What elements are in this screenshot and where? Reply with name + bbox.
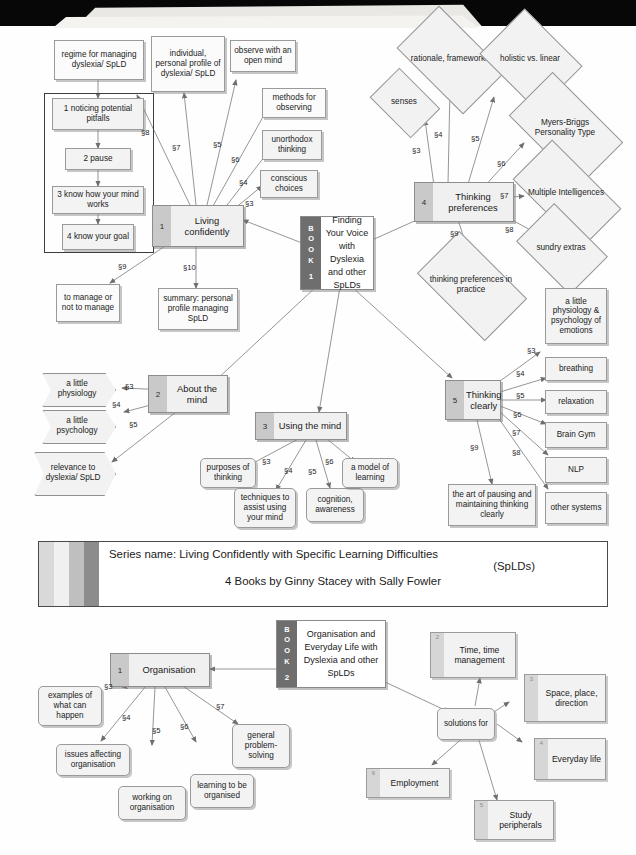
swatch xyxy=(54,542,69,606)
area-number: 5 xyxy=(475,801,488,839)
section-label: §7 xyxy=(500,191,508,200)
swatch xyxy=(84,542,99,606)
series-authors-line: 4 Books by Ginny Stacey with Sally Fowle… xyxy=(109,572,597,587)
area-number: 4 xyxy=(535,739,548,779)
area-label: Study peripherals xyxy=(488,801,553,839)
chapter-3-using-the-mind: 3 Using the mind xyxy=(255,412,347,440)
other-systems-box: other systems xyxy=(545,492,607,524)
chapter-title: Living confidently xyxy=(171,206,243,246)
book-spine: B O O K 2 xyxy=(277,621,297,687)
methods-for-observing-box: methods for observing xyxy=(262,88,326,118)
regime-for-managing-box: regime for managing dyslexia/ SpLD xyxy=(54,40,144,80)
series-name-line: Series name: Living Confidently with Spe… xyxy=(109,548,597,560)
section-label: §5 xyxy=(516,391,524,400)
general-problem-solving-box: general problem-solving xyxy=(232,724,290,768)
section-label: §5 xyxy=(213,140,221,149)
techniques-to-assist-box: techniques to assist using your mind xyxy=(234,488,296,528)
spine-letter: K xyxy=(284,657,289,668)
spine-letter: K xyxy=(308,256,313,267)
chevron-label: relevance to dyslexia/ SpLD xyxy=(34,452,114,494)
art-of-pausing-box: the art of pausing and maintaining think… xyxy=(448,484,536,526)
area-label: Space, place, direction xyxy=(538,675,605,721)
chapter-number: 2 xyxy=(149,376,167,412)
chevron-label: a little psychology xyxy=(42,410,114,442)
section-label: §7 xyxy=(172,143,180,152)
chapter-1-living-confidently: 1 Living confidently xyxy=(152,205,244,247)
spine-number: 2 xyxy=(285,672,289,684)
section-label: §6 xyxy=(325,457,333,466)
relevance-to-dyslexia-chevron: relevance to dyslexia/ SpLD xyxy=(34,452,114,494)
a-model-of-learning-box: a model of learning xyxy=(342,458,398,488)
chapter-title: Thinking clearly xyxy=(464,381,503,419)
section-label: §5 xyxy=(129,420,137,429)
regime-step-1: 1 noticing potential pitfalls xyxy=(52,98,144,130)
solution-area-study-peripherals: 5 Study peripherals xyxy=(474,800,554,840)
series-banner: Series name: Living Confidently with Spe… xyxy=(38,541,608,607)
diamond-label: rationale, frameworks xyxy=(410,54,491,64)
chapter-5-thinking-clearly: 5 Thinking clearly xyxy=(445,380,501,420)
chapter-number: 3 xyxy=(256,413,274,439)
diamond-label: senses xyxy=(379,97,428,107)
area-label: Employment xyxy=(380,769,449,797)
diamond-label: thinking preferences in practice xyxy=(430,275,513,295)
conscious-choices-box: conscious choices xyxy=(260,170,318,198)
diamond-label: sundry extras xyxy=(528,243,593,253)
regime-step-4: 4 know your goal xyxy=(62,224,134,250)
book-spine: B O O K 1 xyxy=(301,217,321,289)
section-label: §6 xyxy=(231,155,239,164)
solution-area-employment: 6 Employment xyxy=(366,768,450,798)
breathing-box: breathing xyxy=(545,357,607,381)
swatch xyxy=(39,542,54,606)
spine-number: 1 xyxy=(309,271,313,283)
area-number: 6 xyxy=(367,769,380,797)
nlp-box: NLP xyxy=(545,457,607,483)
diamond-label: Myers-Briggs Personality Type xyxy=(522,118,608,138)
spine-letter: B xyxy=(284,625,289,636)
diamond-label: Multiple Intelligences xyxy=(524,188,608,198)
book-title: Organisation and Everyday Life with Dysl… xyxy=(297,621,385,687)
brain-gym-box: Brain Gym xyxy=(545,422,607,448)
section-label: §4 xyxy=(112,400,120,409)
chevron-label: a little physiology xyxy=(42,373,114,405)
section-label: §8 xyxy=(505,225,513,234)
physiology-psychology-emotions-box: a little physiology & psychology of emot… xyxy=(545,288,607,344)
section-label: §9 xyxy=(450,229,458,238)
section-label: §3 xyxy=(104,682,112,691)
section-label: §8 xyxy=(141,128,149,137)
solution-area-time-management: 2 Time, time management xyxy=(430,632,516,678)
solutions-for-hub: solutions for xyxy=(437,708,495,740)
spine-letter: O xyxy=(308,234,314,245)
section-label: §3 xyxy=(245,199,253,208)
sundry-extras-diamond: sundry extras xyxy=(524,222,598,274)
diagram-page: regime for managing dyslexia/ SpLD 1 not… xyxy=(0,0,636,855)
area-label: Time, time management xyxy=(444,633,515,677)
to-manage-or-not-box: to manage or not to manage xyxy=(56,284,120,322)
area-number: 2 xyxy=(431,633,444,677)
chapter-number: 4 xyxy=(415,183,433,221)
book-1-cover: B O O K 1 Finding Your Voice with Dyslex… xyxy=(300,216,374,290)
spine-letter: O xyxy=(284,646,290,657)
section-label: §4 xyxy=(284,466,292,475)
relaxation-box: relaxation xyxy=(545,390,607,414)
chapter-number: 1 xyxy=(111,654,129,686)
chapter-number: 5 xyxy=(446,381,464,419)
section-label: §4 xyxy=(122,713,130,722)
individual-personal-profile-box: individual, personal profile of dyslexia… xyxy=(151,36,225,92)
section-label: §3 xyxy=(527,346,535,355)
thinking-preferences-in-practice-diamond: thinking preferences in practice xyxy=(424,256,518,314)
working-on-organisation-box: working on organisation xyxy=(118,786,186,820)
book-2-cover: B O O K 2 Organisation and Everyday Life… xyxy=(276,620,386,688)
area-number: 3 xyxy=(525,675,538,721)
chapter-organisation: 1 Organisation xyxy=(110,653,210,687)
section-label: §5 xyxy=(308,467,316,476)
section-label: §6 xyxy=(513,410,521,419)
section-label: §3 xyxy=(125,382,133,391)
section-label: §4 xyxy=(434,130,442,139)
learning-to-be-organised-box: learning to be organised xyxy=(190,774,254,808)
section-label: §7 xyxy=(216,702,224,711)
chapter-title: About the mind xyxy=(167,376,227,412)
chapter-title: Organisation xyxy=(129,654,209,686)
summary-personal-profile-box: summary: personal profile managing SpLD xyxy=(158,288,238,330)
section-label: §4 xyxy=(239,178,247,187)
solution-area-space-place-direction: 3 Space, place, direction xyxy=(524,674,606,722)
